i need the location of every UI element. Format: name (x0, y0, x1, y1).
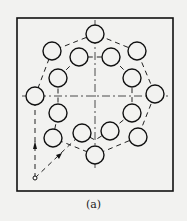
hole (70, 48, 88, 66)
caption: (a) (0, 198, 187, 211)
hole (49, 69, 67, 87)
arrow-icon (56, 153, 62, 159)
hole (123, 69, 141, 87)
hole (102, 48, 120, 66)
hole (49, 104, 67, 122)
hole-pattern-diagram (0, 0, 187, 221)
hole (44, 129, 62, 147)
arrow-icon (33, 141, 37, 149)
hole (73, 124, 91, 142)
hole (123, 104, 141, 122)
hole (146, 85, 164, 103)
hole (86, 25, 104, 43)
start-point (33, 176, 37, 180)
hole (26, 87, 44, 105)
hole (86, 146, 104, 164)
hole (101, 122, 119, 140)
hole (43, 42, 61, 60)
hole (129, 128, 147, 146)
hole (128, 42, 146, 60)
